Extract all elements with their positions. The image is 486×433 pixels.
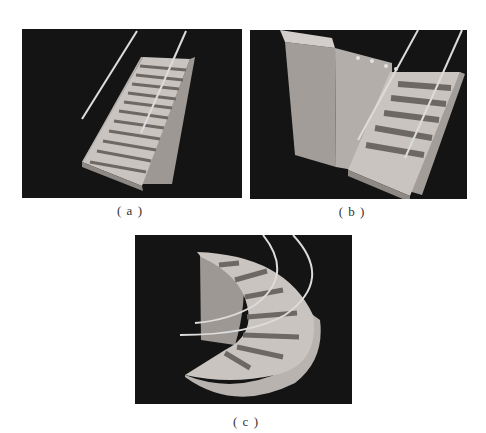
panel-a-straight-stair — [22, 29, 242, 198]
caption-b: ( b ) — [332, 204, 372, 220]
panel-b-stair-with-block — [250, 30, 467, 199]
panel-c-spiral-stair — [135, 235, 352, 404]
straight-stair-render — [22, 29, 242, 198]
caption-a: ( a ) — [110, 203, 150, 219]
block-stair-render — [250, 30, 467, 199]
caption-c: ( c ) — [226, 414, 266, 430]
spiral-stair-render — [135, 235, 352, 404]
